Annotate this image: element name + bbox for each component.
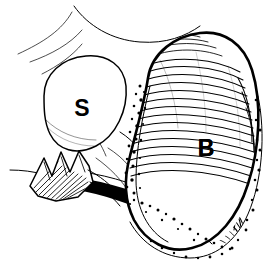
figure-root: Black and white line drawing of two adja… bbox=[0, 0, 279, 272]
anatomical-illustration: Black and white line drawing of two adja… bbox=[0, 0, 279, 272]
label-b: B bbox=[198, 135, 215, 161]
label-s: S bbox=[74, 95, 89, 121]
